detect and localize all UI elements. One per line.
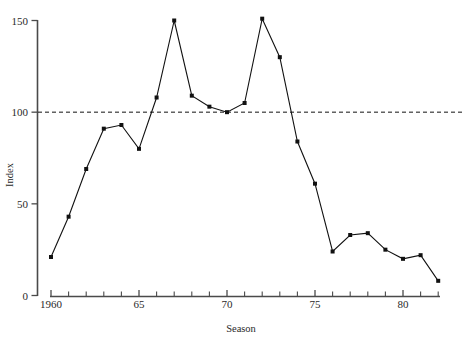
data-point	[102, 127, 106, 131]
x-tick-label: 70	[222, 298, 234, 310]
data-point	[278, 55, 282, 59]
data-point	[243, 101, 247, 105]
x-axis-title: Season	[226, 323, 256, 334]
data-point	[84, 167, 88, 171]
y-axis-ticks	[32, 21, 38, 296]
data-point	[313, 182, 317, 186]
data-point	[190, 94, 194, 98]
x-tick-label: 75	[310, 298, 322, 310]
data-point-markers	[49, 17, 440, 283]
data-point	[366, 231, 370, 235]
y-axis-tick-labels: 050100150	[12, 15, 29, 302]
data-point	[331, 250, 335, 254]
data-series-line	[51, 19, 438, 281]
data-point	[119, 123, 123, 127]
x-axis-tick-labels: 196065707580	[40, 298, 409, 310]
y-tick-label: 100	[12, 106, 29, 118]
y-tick-label: 0	[23, 290, 29, 302]
data-point	[419, 253, 423, 257]
data-point	[155, 96, 159, 100]
chart-container: 050100150 196065707580 Season Index	[0, 0, 475, 352]
data-point	[260, 17, 264, 21]
data-point	[436, 279, 440, 283]
data-point	[137, 147, 141, 151]
data-point	[295, 140, 299, 144]
line-chart: 050100150 196065707580 Season Index	[0, 0, 475, 352]
data-point	[207, 105, 211, 109]
y-tick-label: 150	[12, 15, 29, 27]
data-point	[49, 255, 53, 259]
data-point	[348, 233, 352, 237]
y-tick-label: 50	[17, 198, 29, 210]
x-tick-label: 80	[398, 298, 410, 310]
data-point	[383, 248, 387, 252]
data-point	[172, 19, 176, 23]
data-point	[401, 257, 405, 261]
x-tick-label: 65	[134, 298, 146, 310]
data-point	[225, 110, 229, 114]
x-tick-label: 1960	[40, 298, 63, 310]
y-axis-title: Index	[4, 162, 15, 187]
x-axis-ticks	[51, 290, 438, 297]
data-point	[67, 215, 71, 219]
